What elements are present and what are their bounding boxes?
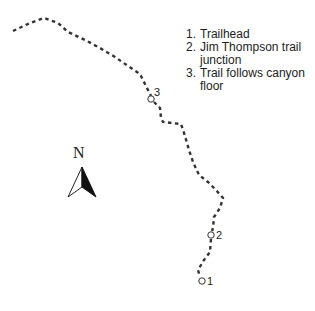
legend-text: Trail follows canyon floor [200, 67, 314, 93]
legend-text: Jim Thompson trail junction [200, 41, 314, 67]
legend-number: 2. [186, 41, 200, 67]
waypoint-2-label: 2 [216, 230, 222, 241]
map-legend: 1. Trailhead 2. Jim Thompson trail junct… [186, 28, 314, 93]
waypoint-2-marker [208, 232, 214, 238]
legend-item-junction: 2. Jim Thompson trail junction [186, 41, 314, 67]
waypoint-1-label: 1 [207, 276, 213, 287]
waypoint-3-label: 3 [154, 87, 160, 98]
north-label: N [73, 145, 85, 161]
legend-number: 3. [186, 67, 200, 93]
legend-item-canyon-floor: 3. Trail follows canyon floor [186, 67, 314, 93]
waypoint-1-marker [199, 278, 205, 284]
north-arrow-icon [68, 167, 96, 197]
